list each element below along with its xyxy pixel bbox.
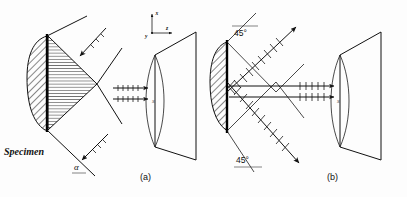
panel-caption-b: (b) [327,172,338,182]
alpha-angle-label-a: α [74,162,79,172]
axis-x-label: x [155,10,159,16]
angle-label-b-bottom: 45° [236,155,249,165]
panel-caption-a: (a) [140,172,151,182]
angle-label-b-top: 45° [234,28,247,38]
figure-root: x z y S Specimen α (a) [0,0,407,197]
scattering-diagram-svg: x z y S Specimen α (a) [0,0,407,197]
specimen-label-a: Specimen [4,146,44,157]
axis-y-label: y [144,33,148,39]
axis-origin [151,32,153,34]
